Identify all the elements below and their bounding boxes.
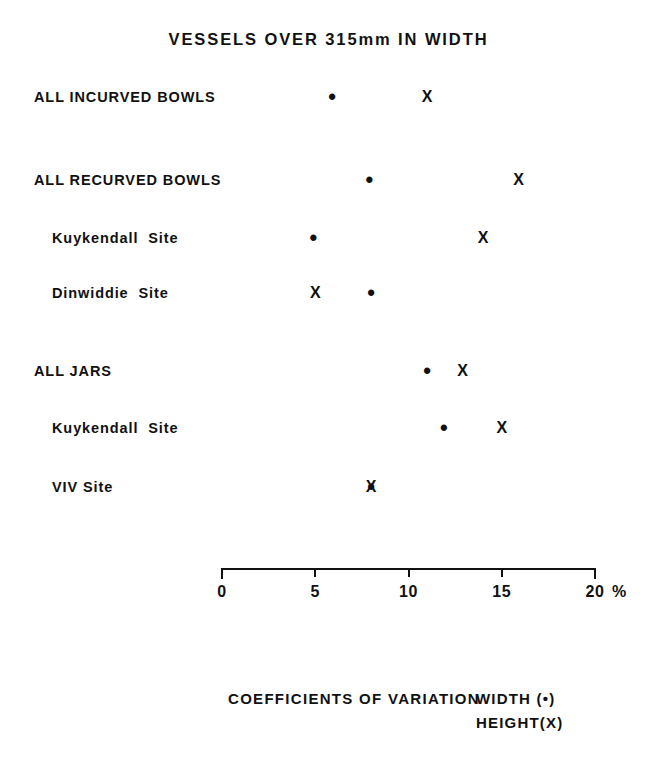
axis-tick	[408, 568, 410, 577]
axis-tick-label: 10	[399, 583, 418, 601]
data-point-height-x	[419, 85, 435, 109]
axis-unit-label: %	[612, 583, 626, 601]
axis-tick	[314, 568, 316, 577]
row-label: ALL INCURVED BOWLS	[34, 85, 216, 109]
x-axis: % 05101520	[0, 568, 657, 618]
plot-row: ALL INCURVED BOWLS	[0, 85, 657, 109]
data-point-height-x	[363, 475, 379, 499]
chart-figure: VESSELS OVER 315mm IN WIDTH ALL INCURVED…	[0, 0, 657, 759]
data-point-width-dot	[437, 416, 451, 440]
plot-row: ALL JARS	[0, 359, 657, 383]
data-point-width-dot	[420, 359, 434, 383]
plot-area: ALL INCURVED BOWLSALL RECURVED BOWLSKuyk…	[0, 0, 657, 560]
legend-item-height: HEIGHT(X)	[476, 714, 563, 731]
row-label: Kuykendall Site	[52, 226, 178, 250]
chart-caption: COEFFICIENTS OF VARIATION WIDTH (•) HEIG…	[0, 690, 657, 750]
data-point-width-dot	[364, 281, 378, 305]
axis-tick-label: 5	[311, 583, 320, 601]
row-label: ALL JARS	[34, 359, 112, 383]
row-label: Kuykendall Site	[52, 416, 178, 440]
plot-row: Kuykendall Site	[0, 226, 657, 250]
axis-tick	[501, 568, 503, 577]
data-point-width-dot	[325, 85, 339, 109]
axis-tick	[594, 568, 596, 579]
axis-tick-label: 20	[586, 583, 605, 601]
caption-coefficients-of-variation: COEFFICIENTS OF VARIATION	[228, 690, 480, 707]
data-point-width-dot	[362, 168, 376, 192]
data-point-height-x	[494, 416, 510, 440]
data-point-height-x	[475, 226, 491, 250]
axis-tick-label: 0	[217, 583, 226, 601]
legend-item-width: WIDTH (•)	[476, 690, 555, 707]
data-point-height-x	[455, 359, 471, 383]
data-point-width-dot	[306, 226, 320, 250]
plot-row: ALL RECURVED BOWLS	[0, 168, 657, 192]
axis-tick	[221, 568, 223, 579]
row-label: VIV Site	[52, 475, 113, 499]
plot-row: VIV Site	[0, 475, 657, 499]
plot-row: Dinwiddie Site	[0, 281, 657, 305]
row-label: Dinwiddie Site	[52, 281, 169, 305]
axis-tick-label: 15	[492, 583, 511, 601]
plot-row: Kuykendall Site	[0, 416, 657, 440]
data-point-height-x	[511, 168, 527, 192]
row-label: ALL RECURVED BOWLS	[34, 168, 221, 192]
data-point-height-x	[307, 281, 323, 305]
